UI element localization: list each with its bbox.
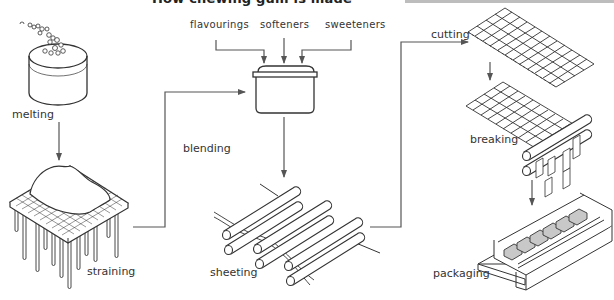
blending-mixer-icon bbox=[253, 66, 317, 113]
stage-label-packaging: packaging bbox=[433, 267, 490, 280]
process-diagram bbox=[0, 0, 614, 300]
arrow-sweeteners bbox=[302, 40, 351, 63]
arrow-sheeting-to-cutting bbox=[370, 42, 468, 227]
stage-label-breaking: breaking bbox=[470, 133, 518, 146]
ingredient-label-softeners: softeners bbox=[260, 19, 309, 30]
stage-label-straining: straining bbox=[87, 265, 135, 278]
ingredient-label-sweeteners: sweeteners bbox=[325, 19, 386, 30]
arrow-straining-to-blending bbox=[133, 92, 245, 227]
ingredient-label-flavourings: flavourings bbox=[190, 19, 249, 30]
stage-label-melting: melting bbox=[12, 108, 54, 121]
stage-label-cutting: cutting bbox=[431, 28, 470, 41]
stage-label-sheeting: sheeting bbox=[210, 266, 258, 279]
arrow-flavourings bbox=[216, 40, 264, 63]
stage-label-blending: blending bbox=[183, 142, 231, 155]
cutting-grid-icon bbox=[468, 8, 594, 87]
